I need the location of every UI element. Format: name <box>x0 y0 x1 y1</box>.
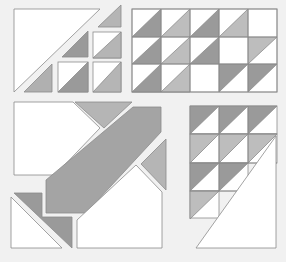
block-bottom-right <box>190 106 277 248</box>
block-bottom-left <box>11 102 166 248</box>
block-top-right <box>132 9 277 92</box>
quilt-diagram <box>0 0 286 262</box>
